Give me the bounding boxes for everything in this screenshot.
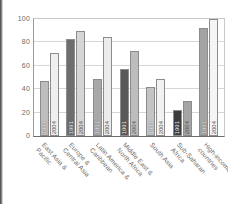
bar-inline-year-label: 2004 [104, 121, 110, 134]
bar-inline-year-label: 1991 [41, 121, 47, 134]
bar-2004[interactable]: 2004 [209, 19, 218, 136]
y-axis-tick-label: 20 [22, 108, 30, 115]
y-axis-tick-label: 0 [26, 132, 30, 139]
bar-group: 19912004 [116, 19, 143, 136]
bar-inline-year-label: 1991 [121, 121, 127, 134]
bar-2004[interactable]: 2004 [183, 101, 192, 136]
y-axis-tick-label: 40 [22, 85, 30, 92]
bar-1991[interactable]: 1991 [40, 81, 49, 136]
bar-group: 19912004 [63, 19, 90, 136]
bar-1991[interactable]: 1991 [173, 110, 182, 136]
bar-1991[interactable]: 1991 [66, 39, 75, 136]
bar-2004[interactable]: 2004 [103, 37, 112, 136]
bar-1991[interactable]: 1991 [93, 79, 102, 136]
plot-area: 020406080100 199120041991200419912004199… [33, 18, 225, 137]
bar-chart-figure: 020406080100 199120041991200419912004199… [3, 0, 228, 204]
bar-inline-year-label: 2004 [211, 121, 217, 134]
x-axis-category: Europe & Central Asia [62, 139, 89, 203]
bar-2004[interactable]: 2004 [156, 79, 165, 136]
bar-group: 19912004 [169, 19, 196, 136]
bar-group: 19912004 [89, 19, 116, 136]
bar-1991[interactable]: 1991 [199, 28, 208, 136]
y-axis-tick-label: 80 [22, 38, 30, 45]
bar-inline-year-label: 2004 [51, 121, 57, 134]
bar-group: 19912004 [36, 19, 63, 136]
x-axis-category: High-income countries [196, 139, 223, 203]
bar-group: 19912004 [195, 19, 222, 136]
x-axis-category: South Asia [142, 139, 169, 203]
x-axis-category: Latin America & Caribbean [89, 139, 116, 203]
x-axis-category: East Asia & Pacific [35, 139, 62, 203]
bar-inline-year-label: 2004 [158, 121, 164, 134]
bar-inline-year-label: 2004 [131, 121, 137, 134]
x-axis-category-labels: East Asia & PacificEurope & Central Asia… [33, 139, 225, 203]
bar-1991[interactable]: 1991 [146, 87, 155, 136]
bar-inline-year-label: 1991 [201, 121, 207, 134]
bar-2004[interactable]: 2004 [130, 51, 139, 136]
x-axis-category: Sub-Saharan Africa [169, 139, 196, 203]
bar-group: 19912004 [142, 19, 169, 136]
bar-2004[interactable]: 2004 [50, 53, 59, 136]
bar-inline-year-label: 2004 [78, 121, 84, 134]
bar-2004[interactable]: 2004 [76, 31, 85, 136]
x-axis-category: Middle East & North Africa [116, 139, 143, 203]
bar-inline-year-label: 1991 [94, 121, 100, 134]
bar-series-container: 1991200419912004199120041991200419912004… [34, 19, 224, 136]
bar-inline-year-label: 2004 [184, 121, 190, 134]
bar-inline-year-label: 1991 [68, 121, 74, 134]
bar-inline-year-label: 1991 [148, 121, 154, 134]
bar-inline-year-label: 1991 [174, 121, 180, 134]
y-axis-tick-label: 100 [18, 15, 30, 22]
bar-1991[interactable]: 1991 [120, 69, 129, 136]
y-axis-tick-label: 60 [22, 61, 30, 68]
